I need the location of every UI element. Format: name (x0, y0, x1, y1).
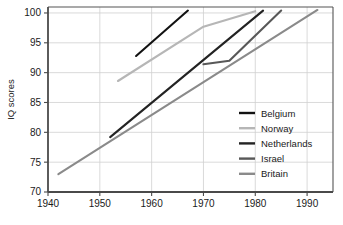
x-tick-label: 1950 (89, 198, 112, 209)
y-tick-label: 90 (30, 67, 42, 78)
y-tick-label: 80 (30, 127, 42, 138)
y-axis-title: IQ scores (5, 79, 16, 120)
y-tick-label: 70 (30, 186, 42, 197)
x-tick-label: 1960 (141, 198, 164, 209)
y-axis-title-text: IQ scores (5, 79, 16, 120)
y-tick-label: 95 (30, 37, 42, 48)
x-tick-label: 1970 (192, 198, 215, 209)
legend-label-israel: Israel (261, 153, 284, 164)
x-tick-label: 1990 (296, 198, 319, 209)
y-tick-label: 100 (24, 7, 41, 18)
legend-label-britain: Britain (261, 168, 288, 179)
y-tick-label: 75 (30, 157, 42, 168)
chart-container: 707580859095100 194019501960197019801990… (0, 0, 343, 225)
y-tick-label: 85 (30, 97, 42, 108)
x-tick-label: 1940 (37, 198, 60, 209)
legend-label-belgium: Belgium (261, 108, 295, 119)
x-tick-label: 1980 (244, 198, 267, 209)
iq-scores-line-chart: 707580859095100 194019501960197019801990… (0, 0, 343, 225)
legend-label-norway: Norway (261, 123, 293, 134)
legend-label-netherlands: Netherlands (261, 138, 312, 149)
